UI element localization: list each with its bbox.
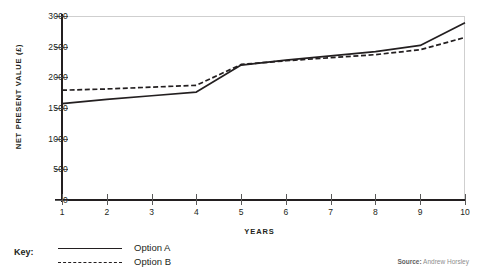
- legend-swatch-solid-icon: [58, 248, 122, 249]
- chart-figure: 050010001500200025003000 12345678910 NET…: [0, 0, 479, 273]
- source-credit: Source: Andrew Horsley: [397, 258, 469, 265]
- legend-swatch-dashed-icon: [58, 262, 122, 263]
- legend-label-option-b: Option B: [134, 256, 171, 267]
- series-line-option-b: [62, 37, 465, 90]
- source-value: Andrew Horsley: [423, 258, 469, 265]
- source-label: Source:: [397, 258, 421, 265]
- legend-key-label: Key:: [14, 247, 34, 257]
- legend-label-option-a: Option A: [134, 242, 170, 253]
- data-series-layer: [0, 0, 479, 273]
